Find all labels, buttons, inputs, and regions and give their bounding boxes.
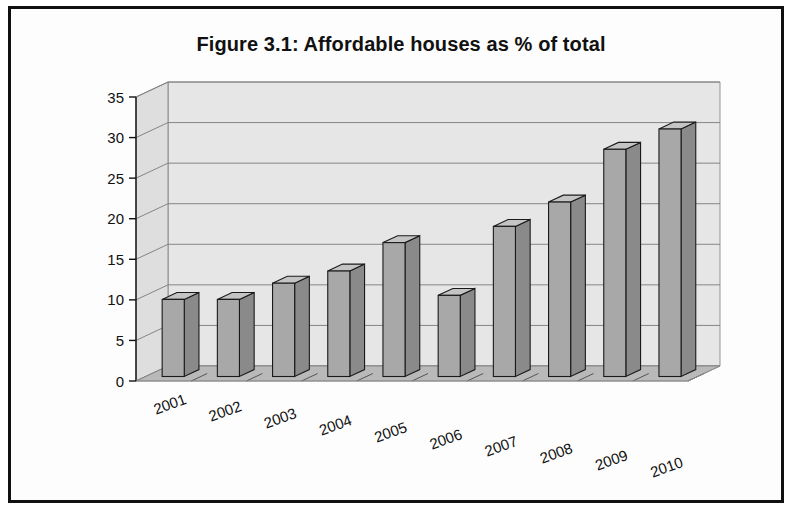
- bar-2001: [162, 293, 199, 377]
- bar-side-face: [515, 219, 530, 376]
- bar-side-face: [460, 288, 475, 376]
- y-axis-tick-label: 25: [107, 170, 124, 187]
- bar-side-face: [681, 122, 696, 376]
- bar-side-face: [184, 293, 199, 377]
- bar-front-face: [162, 299, 184, 376]
- bar-chart-plot-area: 05101520253035 2001200220032004200520062…: [0, 0, 802, 518]
- bar-side-face: [405, 236, 420, 377]
- x-axis: 2001200220032004200520062007200820092010: [136, 366, 720, 481]
- bar-side-face: [350, 264, 365, 376]
- x-axis-tick-label: 2005: [372, 418, 409, 445]
- bar-front-face: [438, 295, 460, 376]
- bar-2004: [328, 264, 365, 376]
- chart-svg: 05101520253035 2001200220032004200520062…: [0, 0, 802, 518]
- y-axis-tick-label: 20: [107, 210, 124, 227]
- bar-front-face: [493, 226, 515, 376]
- y-axis-tick-label: 30: [107, 129, 124, 146]
- x-axis-tick-label: 2003: [262, 404, 299, 431]
- bar-side-face: [626, 142, 641, 376]
- bar-2008: [549, 195, 586, 376]
- y-axis: 05101520253035: [107, 89, 136, 390]
- x-axis-tick-label: 2001: [151, 390, 188, 417]
- y-axis-tick-label: 10: [107, 291, 124, 308]
- bar-2002: [217, 293, 254, 377]
- y-axis-tick-label: 5: [116, 332, 124, 349]
- bar-side-face: [295, 276, 310, 376]
- x-axis-tick-label: 2006: [427, 425, 464, 452]
- x-axis-tick-label: 2007: [482, 432, 519, 459]
- bar-front-face: [549, 202, 571, 376]
- bar-front-face: [217, 299, 239, 376]
- bar-front-face: [659, 129, 681, 376]
- bar-front-face: [604, 149, 626, 376]
- y-axis-tick-label: 0: [116, 373, 124, 390]
- bar-2005: [383, 236, 420, 377]
- y-axis-tick-label: 35: [107, 89, 124, 106]
- x-axis-tick-label: 2002: [206, 397, 243, 424]
- bar-2007: [493, 219, 530, 376]
- figure-page: Figure 3.1: Affordable houses as % of to…: [0, 0, 802, 518]
- x-axis-tick-label: 2010: [648, 453, 685, 480]
- bar-side-face: [239, 293, 254, 377]
- bar-front-face: [273, 283, 295, 376]
- bar-2009: [604, 142, 641, 376]
- x-axis-tick-label: 2004: [317, 411, 354, 438]
- x-axis-tick-label: 2009: [593, 446, 630, 473]
- bar-2006: [438, 288, 475, 376]
- bar-front-face: [328, 271, 350, 376]
- x-axis-tick-label: 2008: [538, 439, 575, 466]
- bar-2010: [659, 122, 696, 376]
- y-axis-tick-label: 15: [107, 251, 124, 268]
- bar-front-face: [383, 243, 405, 377]
- bar-side-face: [571, 195, 586, 376]
- bar-2003: [273, 276, 310, 376]
